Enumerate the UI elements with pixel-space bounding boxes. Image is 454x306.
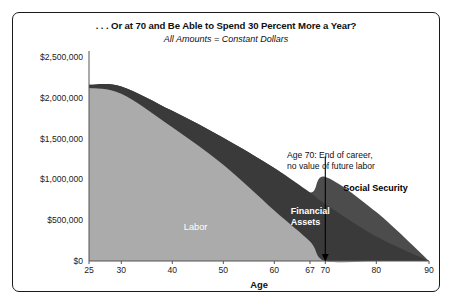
y-tick-2500000: $2,500,000 [40, 52, 83, 62]
y-tick-1000000: $1,000,000 [40, 174, 83, 184]
annotation-line-1: Age 70: End of career, [287, 150, 375, 161]
x-axis-title: Age [250, 279, 268, 290]
x-tick-25: 25 [84, 265, 94, 275]
x-tick-40: 40 [168, 265, 178, 275]
x-tick-67: 67 [305, 265, 315, 275]
band-label-financial-assets-line-2: Assets [291, 217, 330, 228]
x-tick-60: 60 [270, 265, 280, 275]
x-tick-70: 70 [321, 265, 331, 275]
band-label-social-security: Social Security [343, 183, 408, 193]
x-tick-90: 90 [424, 265, 434, 275]
y-tick-500000: $500,000 [47, 215, 83, 225]
x-tick-50: 50 [219, 265, 229, 275]
x-tick-80: 80 [372, 265, 382, 275]
y-tick-2000000: $2,000,000 [40, 93, 83, 103]
chart-container: . . . Or at 70 and Be Able to Spend 30 P… [12, 12, 440, 292]
annotation-age-70: Age 70: End of career,no value of future… [287, 150, 375, 172]
band-label-financial-assets-line-1: Financial [291, 206, 330, 217]
y-tick-1500000: $1,500,000 [40, 134, 83, 144]
x-tick-30: 30 [117, 265, 127, 275]
annotation-line-2: no value of future labor [287, 161, 375, 172]
y-tick-0: $0 [73, 256, 83, 266]
band-label-financial-assets: FinancialAssets [291, 206, 330, 228]
band-label-labor: Labor [184, 222, 208, 232]
